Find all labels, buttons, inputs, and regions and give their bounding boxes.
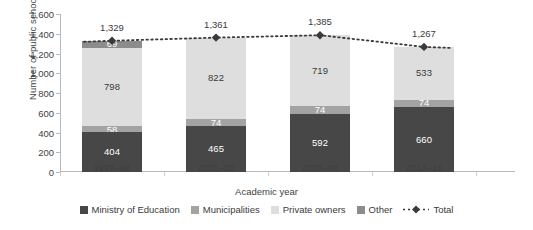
x-tick-label: 2007–08 <box>302 162 339 173</box>
legend-swatch-icon <box>191 206 199 214</box>
legend-swatch-icon <box>357 206 365 214</box>
x-tick-mark <box>372 172 373 176</box>
total-line <box>84 35 450 48</box>
legend-label: Municipalities <box>203 204 260 215</box>
x-tick-mark <box>60 172 61 176</box>
total-marker[interactable] <box>212 33 220 41</box>
legend-label: Other <box>369 204 393 215</box>
x-tick-mark <box>164 172 165 176</box>
total-value-label: 1,385 <box>308 16 332 27</box>
legend-label: Total <box>433 204 453 215</box>
x-tick-label: 2014–15 <box>406 162 443 173</box>
legend-item[interactable]: Total <box>403 204 453 215</box>
total-line-series <box>60 14 515 172</box>
legend-line-marker-icon <box>403 205 429 214</box>
legend-label: Ministry of Education <box>92 204 180 215</box>
chart-legend: Ministry of EducationMunicipalitiesPriva… <box>0 204 533 215</box>
total-marker[interactable] <box>316 31 324 39</box>
x-tick-label: 2001–02 <box>198 162 235 173</box>
legend-label: Private owners <box>283 204 346 215</box>
x-axis-title: Academic year <box>0 186 533 197</box>
legend-swatch-icon <box>271 206 279 214</box>
x-tick-label: 1997–98 <box>94 162 131 173</box>
stacked-bar-chart: Number of public schools 02004006008001,… <box>0 0 533 230</box>
total-marker[interactable] <box>420 43 428 51</box>
total-value-label: 1,361 <box>204 19 228 30</box>
total-value-label: 1,329 <box>100 22 124 33</box>
legend-item[interactable]: Municipalities <box>191 204 260 215</box>
legend-item[interactable]: Ministry of Education <box>80 204 180 215</box>
legend-item[interactable]: Other <box>357 204 393 215</box>
total-marker[interactable] <box>108 37 116 45</box>
total-value-label: 1,267 <box>412 28 436 39</box>
x-tick-mark <box>476 172 477 176</box>
plot-area: 02004006008001,0001,2001,4001,600 697985… <box>60 14 515 172</box>
legend-swatch-icon <box>80 206 88 214</box>
legend-item[interactable]: Private owners <box>271 204 346 215</box>
x-tick-mark <box>268 172 269 176</box>
